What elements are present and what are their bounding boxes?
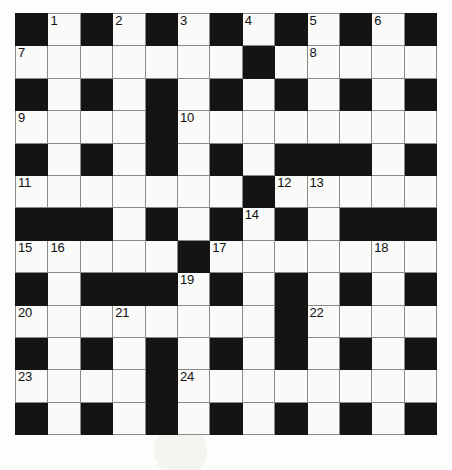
letter-cell[interactable] [48,46,80,78]
letter-cell[interactable] [339,175,371,207]
letter-cell[interactable] [242,337,274,369]
letter-cell[interactable] [372,273,404,305]
letter-cell[interactable]: 3 [177,14,209,46]
letter-cell[interactable] [242,143,274,175]
letter-cell[interactable] [113,78,145,110]
letter-cell[interactable] [339,370,371,402]
letter-cell[interactable] [48,78,80,110]
letter-cell[interactable]: 15 [16,240,48,272]
letter-cell[interactable]: 18 [372,240,404,272]
crossword-grid[interactable]: 123456789101112131415161718192021222324 [15,13,437,435]
letter-cell[interactable] [48,370,80,402]
letter-cell[interactable] [372,111,404,143]
letter-cell[interactable] [372,78,404,110]
letter-cell[interactable]: 16 [48,240,80,272]
letter-cell[interactable] [307,78,339,110]
letter-cell[interactable]: 1 [48,14,80,46]
letter-cell[interactable] [48,337,80,369]
letter-cell[interactable] [275,370,307,402]
letter-cell[interactable] [339,305,371,337]
letter-cell[interactable] [145,175,177,207]
letter-cell[interactable] [210,305,242,337]
letter-cell[interactable] [177,143,209,175]
letter-cell[interactable] [372,143,404,175]
letter-cell[interactable] [242,305,274,337]
letter-cell[interactable] [372,305,404,337]
letter-cell[interactable] [242,78,274,110]
letter-cell[interactable] [80,305,112,337]
letter-cell[interactable] [307,111,339,143]
letter-cell[interactable] [307,240,339,272]
letter-cell[interactable] [275,240,307,272]
letter-cell[interactable] [113,175,145,207]
letter-cell[interactable] [113,240,145,272]
letter-cell[interactable]: 17 [210,240,242,272]
letter-cell[interactable] [177,78,209,110]
letter-cell[interactable] [372,402,404,434]
letter-cell[interactable]: 12 [275,175,307,207]
letter-cell[interactable] [48,305,80,337]
letter-cell[interactable] [145,46,177,78]
letter-cell[interactable]: 20 [16,305,48,337]
letter-cell[interactable] [307,370,339,402]
letter-cell[interactable]: 6 [372,14,404,46]
letter-cell[interactable] [80,46,112,78]
letter-cell[interactable] [210,111,242,143]
letter-cell[interactable] [404,240,436,272]
letter-cell[interactable] [80,370,112,402]
letter-cell[interactable] [242,240,274,272]
letter-cell[interactable] [275,111,307,143]
letter-cell[interactable] [48,273,80,305]
letter-cell[interactable]: 23 [16,370,48,402]
letter-cell[interactable]: 22 [307,305,339,337]
letter-cell[interactable] [307,402,339,434]
letter-cell[interactable]: 7 [16,46,48,78]
letter-cell[interactable] [113,143,145,175]
letter-cell[interactable] [177,305,209,337]
letter-cell[interactable] [113,402,145,434]
letter-cell[interactable]: 8 [307,46,339,78]
letter-cell[interactable] [80,240,112,272]
letter-cell[interactable] [242,370,274,402]
letter-cell[interactable] [210,370,242,402]
letter-cell[interactable] [145,305,177,337]
letter-cell[interactable] [242,111,274,143]
letter-cell[interactable]: 14 [242,208,274,240]
letter-cell[interactable] [177,175,209,207]
letter-cell[interactable] [339,111,371,143]
letter-cell[interactable] [404,175,436,207]
letter-cell[interactable] [307,208,339,240]
letter-cell[interactable] [210,175,242,207]
letter-cell[interactable] [48,143,80,175]
letter-cell[interactable] [372,337,404,369]
letter-cell[interactable] [113,370,145,402]
letter-cell[interactable] [372,175,404,207]
letter-cell[interactable]: 19 [177,273,209,305]
letter-cell[interactable] [404,46,436,78]
letter-cell[interactable] [404,305,436,337]
letter-cell[interactable] [177,208,209,240]
letter-cell[interactable] [339,240,371,272]
letter-cell[interactable] [177,337,209,369]
letter-cell[interactable] [177,46,209,78]
letter-cell[interactable] [80,111,112,143]
letter-cell[interactable] [372,46,404,78]
letter-cell[interactable] [404,370,436,402]
letter-cell[interactable] [145,240,177,272]
letter-cell[interactable] [242,402,274,434]
letter-cell[interactable] [113,111,145,143]
letter-cell[interactable]: 2 [113,14,145,46]
letter-cell[interactable]: 5 [307,14,339,46]
letter-cell[interactable]: 13 [307,175,339,207]
letter-cell[interactable] [275,46,307,78]
letter-cell[interactable]: 4 [242,14,274,46]
letter-cell[interactable] [210,46,242,78]
letter-cell[interactable] [177,402,209,434]
letter-cell[interactable] [242,273,274,305]
letter-cell[interactable] [307,337,339,369]
letter-cell[interactable]: 21 [113,305,145,337]
letter-cell[interactable] [372,370,404,402]
letter-cell[interactable] [80,175,112,207]
letter-cell[interactable] [48,402,80,434]
letter-cell[interactable] [113,337,145,369]
